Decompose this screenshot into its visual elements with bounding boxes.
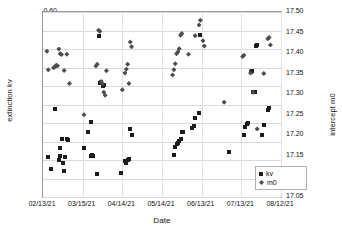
data-point-kv	[227, 150, 231, 154]
data-point-kv	[197, 111, 201, 115]
data-point-kv	[198, 33, 202, 37]
data-point-kv	[242, 133, 246, 137]
data-point-kv	[179, 137, 183, 141]
y-tick-label-right: 17.50	[286, 7, 342, 14]
data-point-m0	[62, 68, 67, 73]
chart-legend: kvm0	[255, 166, 307, 190]
gridline-vertical	[241, 12, 242, 197]
data-point-kv	[267, 106, 271, 110]
data-point-m0	[104, 68, 109, 73]
data-point-kv	[58, 154, 62, 158]
y-tick-label-right: 17.05	[286, 192, 342, 199]
y-tick-label-right: 17.45	[286, 28, 342, 35]
data-point-kv	[255, 43, 259, 47]
data-point-m0	[186, 52, 191, 57]
data-point-kv	[91, 154, 95, 158]
data-point-m0	[56, 47, 61, 52]
data-point-kv	[58, 146, 62, 150]
gridline-vertical	[162, 12, 163, 197]
data-point-m0	[125, 62, 130, 67]
data-point-kv	[260, 133, 264, 137]
data-point-kv	[128, 127, 132, 131]
data-point-kv	[60, 137, 64, 141]
data-point-kv	[66, 138, 70, 142]
data-point-kv	[193, 116, 197, 120]
data-point-kv	[53, 107, 57, 111]
scatter-chart: extinction kv intercept m0 Date 0.100.15…	[0, 0, 342, 234]
square-marker-icon	[259, 172, 263, 176]
data-point-kv	[192, 124, 196, 128]
data-point-kv	[130, 133, 134, 137]
data-point-kv	[49, 167, 53, 171]
legend-item-kv: kv	[259, 169, 303, 178]
data-point-kv	[181, 130, 185, 134]
data-point-kv	[172, 153, 176, 157]
data-point-kv	[246, 121, 250, 125]
y-tick-label-right: 17.15	[286, 151, 342, 158]
data-point-kv	[95, 172, 99, 176]
gridline-vertical	[122, 12, 123, 197]
diamond-marker-icon	[259, 180, 264, 185]
data-point-kv	[97, 34, 101, 38]
data-point-kv	[62, 169, 66, 173]
data-point-kv	[89, 120, 93, 124]
data-point-kv	[127, 157, 131, 161]
data-point-kv	[46, 155, 50, 159]
x-tick-label: 08/12/21	[252, 200, 308, 207]
y-tick-label-right: 17.30	[286, 89, 342, 96]
gridline-vertical	[83, 12, 84, 197]
data-point-m0	[255, 126, 260, 131]
legend-label: m0	[267, 178, 277, 187]
y-tick-label-right: 17.20	[286, 130, 342, 137]
legend-item-m0: m0	[259, 178, 303, 187]
y-tick-label-right: 17.25	[286, 110, 342, 117]
data-point-m0	[193, 33, 198, 38]
data-point-m0	[261, 71, 266, 76]
data-point-kv	[61, 161, 65, 165]
data-point-m0	[170, 72, 175, 77]
plot-area	[42, 11, 282, 198]
x-axis-title: Date	[42, 216, 282, 225]
data-point-kv	[63, 155, 67, 159]
data-point-kv	[262, 123, 266, 127]
legend-label: kv	[266, 169, 273, 178]
y-tick-label-right: 17.40	[286, 48, 342, 55]
data-point-m0	[173, 61, 178, 66]
y-tick-label-right: 17.35	[286, 69, 342, 76]
data-point-m0	[120, 87, 125, 92]
gridline-horizontal	[43, 197, 281, 198]
data-point-m0	[64, 52, 69, 57]
data-point-kv	[82, 146, 86, 150]
data-point-m0	[128, 39, 133, 44]
data-point-kv	[86, 130, 90, 134]
data-point-m0	[268, 42, 273, 47]
data-point-kv	[119, 171, 123, 175]
